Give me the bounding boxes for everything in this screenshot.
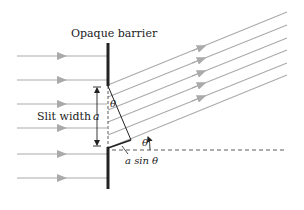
slit-width-label: Slit width: [37, 110, 91, 123]
width-symbol: a: [93, 110, 100, 123]
theta-at-angle: θ: [142, 137, 148, 148]
path-difference-label: a sin θ: [125, 155, 158, 166]
wavefront-line: [108, 86, 131, 140]
barrier-label: Opaque barrier: [71, 27, 158, 40]
path-difference-line: [108, 140, 131, 148]
single-slit-diagram: Opaque barrier Slit width a θ θ a sin θ: [0, 0, 304, 210]
theta-at-slit: θ: [110, 98, 116, 109]
angle-arc: [148, 137, 150, 150]
